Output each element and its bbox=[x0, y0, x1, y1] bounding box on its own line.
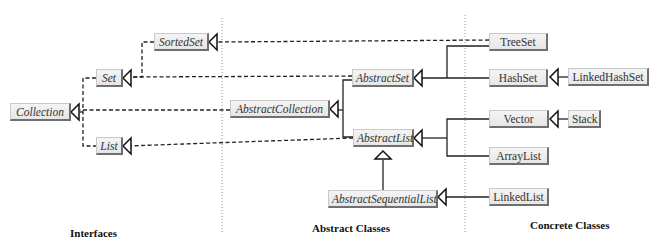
arrowhead bbox=[71, 104, 79, 120]
arrowhead bbox=[414, 130, 422, 146]
arrowhead bbox=[209, 34, 217, 50]
arrowhead bbox=[375, 151, 391, 159]
node-vector: Vector bbox=[489, 110, 549, 128]
arrowhead bbox=[550, 69, 558, 85]
node-abstractsequentiallist: AbstractSequentialList bbox=[328, 190, 438, 208]
arrowhead bbox=[414, 70, 422, 86]
node-linkedhashset: LinkedHashSet bbox=[568, 68, 649, 86]
node-set: Set bbox=[96, 69, 123, 87]
connector-lines bbox=[0, 0, 658, 245]
node-collection: Collection bbox=[10, 103, 71, 121]
node-abstractlist: AbstractList bbox=[353, 129, 414, 147]
collection-hierarchy-diagram: Collection Set SortedSet List AbstractCo… bbox=[0, 0, 658, 245]
node-treeset: TreeSet bbox=[489, 33, 548, 51]
arrowhead bbox=[123, 138, 131, 154]
node-arraylist: ArrayList bbox=[489, 147, 549, 165]
node-list: List bbox=[96, 137, 123, 155]
node-linkedlist: LinkedList bbox=[489, 188, 549, 206]
section-label-interfaces: Interfaces bbox=[70, 227, 117, 239]
section-label-abstract-classes: Abstract Classes bbox=[312, 222, 390, 234]
arrowhead bbox=[330, 101, 338, 117]
arrowhead bbox=[123, 70, 131, 86]
arrowhead bbox=[550, 111, 558, 127]
node-sortedset: SortedSet bbox=[154, 33, 209, 51]
node-hashset: HashSet bbox=[489, 69, 548, 87]
section-label-concrete-classes: Concrete Classes bbox=[530, 219, 610, 231]
node-abstractcollection: AbstractCollection bbox=[230, 100, 330, 118]
node-stack: Stack bbox=[568, 110, 601, 128]
arrowhead bbox=[438, 189, 446, 205]
node-abstractset: AbstractSet bbox=[352, 69, 414, 87]
